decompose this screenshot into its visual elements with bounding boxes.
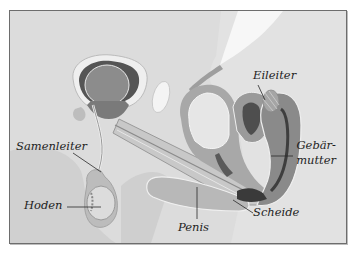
label-eileiter: Eileiter — [253, 70, 296, 82]
label-samenleiter: Samenleiter — [16, 141, 87, 153]
label-penis: Penis — [178, 222, 209, 234]
label-gebaermutter: Gebär- mutter — [296, 138, 336, 168]
label-scheide: Scheide — [253, 207, 299, 219]
label-hoden: Hoden — [24, 200, 63, 212]
label-gebaermutter-line2: mutter — [296, 153, 336, 168]
label-gebaermutter-line1: Gebär- — [296, 138, 336, 153]
